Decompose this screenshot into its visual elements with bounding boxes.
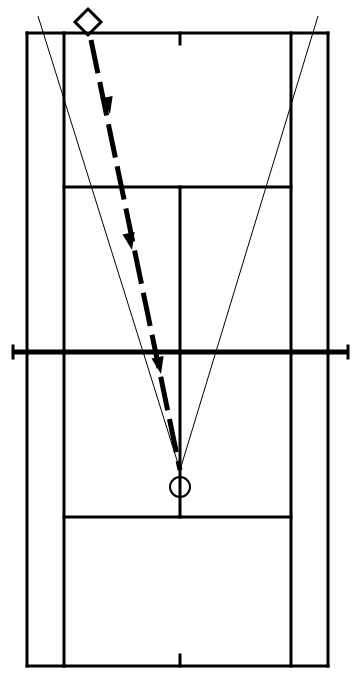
trajectory-arrowhead [122, 232, 134, 250]
court-lines-group [13, 33, 348, 666]
angle-line-right [180, 16, 318, 470]
angle-line-left [38, 16, 180, 470]
ball-trajectory-group [91, 40, 180, 470]
player-diamond-marker[interactable] [75, 9, 101, 35]
coverage-lines-group [38, 16, 318, 470]
trajectory-arrowhead [151, 356, 163, 374]
court-canvas [0, 0, 358, 681]
tennis-court-diagram [0, 0, 358, 681]
